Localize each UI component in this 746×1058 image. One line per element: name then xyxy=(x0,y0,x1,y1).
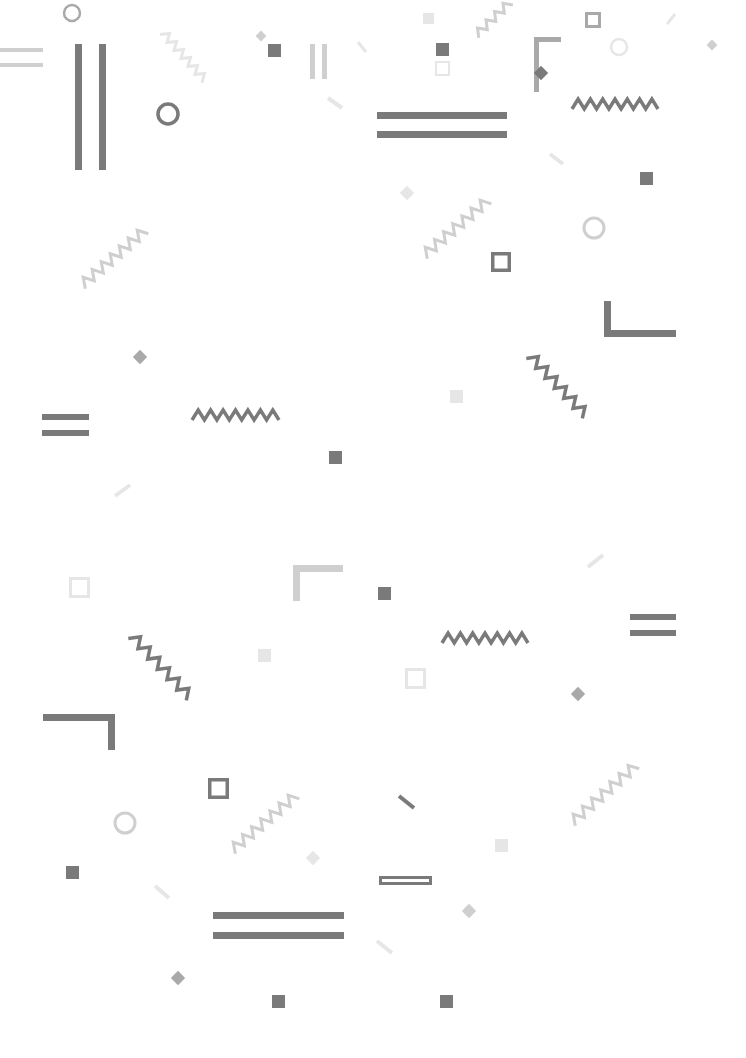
bar-shape xyxy=(322,44,327,79)
diamond-shape xyxy=(256,31,267,42)
diamond-shape xyxy=(171,971,185,985)
ring-shape xyxy=(115,813,135,833)
square-shape xyxy=(423,13,434,24)
bar-shape xyxy=(75,44,82,170)
corner-bracket-shape xyxy=(604,301,676,337)
outline-square-shape xyxy=(493,254,510,271)
square-shape xyxy=(450,390,463,403)
square-shape xyxy=(440,995,453,1008)
dash-shape xyxy=(588,555,603,567)
diamond-shape xyxy=(707,40,718,51)
ring-shape xyxy=(64,5,80,21)
bar-shape xyxy=(42,430,89,436)
ring-shape xyxy=(611,39,627,55)
square-shape xyxy=(272,995,285,1008)
square-shape xyxy=(436,43,449,56)
dash-shape xyxy=(328,98,342,108)
dash-shape xyxy=(399,796,414,808)
diamond-shape xyxy=(462,904,476,918)
zigzag-shape xyxy=(526,357,585,419)
corner-bracket-shape xyxy=(293,565,343,601)
corner-bracket-shape xyxy=(534,37,561,92)
bar-shape xyxy=(377,112,507,119)
outline-square-shape xyxy=(381,878,431,884)
diamond-shape xyxy=(571,687,585,701)
dash-shape xyxy=(377,941,392,953)
bar-shape xyxy=(630,614,676,620)
bar-shape xyxy=(213,932,344,939)
ring-shape xyxy=(158,104,178,124)
diamond-shape xyxy=(133,350,147,364)
dash-shape xyxy=(155,886,169,898)
bar-shape xyxy=(99,44,106,170)
decorative-pattern-canvas xyxy=(0,0,746,1058)
outline-square-shape xyxy=(71,579,89,597)
bar-shape xyxy=(42,414,89,420)
square-shape xyxy=(329,451,342,464)
zigzag-shape xyxy=(425,200,491,259)
bar-shape xyxy=(377,131,507,138)
dash-shape xyxy=(667,14,675,24)
bar-shape xyxy=(0,63,43,67)
bar-shape xyxy=(213,912,344,919)
bar-shape xyxy=(0,48,43,52)
square-shape xyxy=(640,172,653,185)
square-shape xyxy=(66,866,79,879)
zigzag-shape xyxy=(83,230,148,289)
square-shape xyxy=(258,649,271,662)
zigzag-shape xyxy=(478,3,513,38)
outline-square-shape xyxy=(436,62,449,75)
square-shape xyxy=(268,44,281,57)
outline-square-shape xyxy=(587,14,600,27)
bar-shape xyxy=(630,630,676,636)
zigzag-shape xyxy=(192,410,279,420)
zigzag-shape xyxy=(572,99,658,109)
zigzag-shape xyxy=(442,633,528,643)
zigzag-shape xyxy=(128,637,189,701)
bar-shape xyxy=(310,44,315,79)
ring-shape xyxy=(584,218,604,238)
dash-shape xyxy=(115,485,130,496)
diamond-shape xyxy=(400,186,414,200)
outline-square-shape xyxy=(210,780,228,798)
corner-bracket-shape xyxy=(43,714,115,750)
dash-shape xyxy=(550,154,563,164)
dash-shape xyxy=(358,42,366,52)
zigzag-shape xyxy=(233,795,299,854)
zigzag-shape xyxy=(160,33,205,82)
diamond-shape xyxy=(306,851,320,865)
square-shape xyxy=(378,587,391,600)
square-shape xyxy=(495,839,508,852)
zigzag-shape xyxy=(573,765,639,825)
outline-square-shape xyxy=(407,670,425,688)
